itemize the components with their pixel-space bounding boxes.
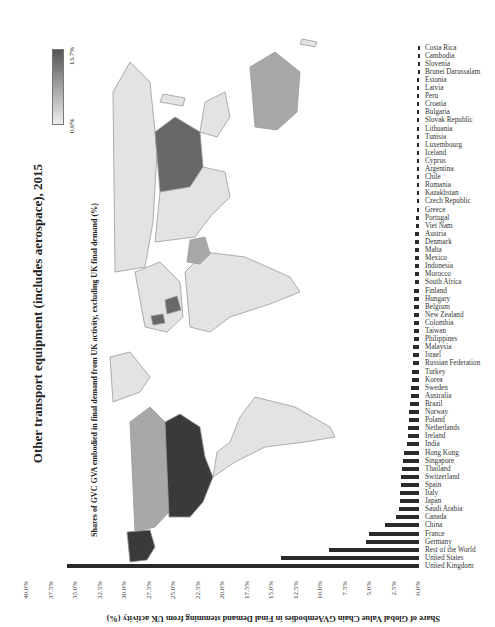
x-category-label: Israel	[425, 351, 441, 359]
bar	[281, 556, 419, 560]
x-category-label: Slovak Republic	[425, 117, 473, 125]
x-category-label: Romania	[425, 181, 451, 189]
x-category-label: Costa Rica	[425, 44, 456, 52]
y-tick-label: 15.0%	[267, 581, 275, 607]
bar	[415, 232, 419, 236]
bar	[414, 337, 419, 341]
y-tick-label: 30.0%	[120, 581, 128, 607]
bar	[417, 78, 419, 82]
x-category-label: Belgium	[425, 303, 450, 311]
bar	[410, 402, 419, 406]
united-states-region	[165, 414, 213, 517]
x-category-label: Slovenia	[425, 60, 450, 68]
x-category-label: Germany	[425, 538, 452, 546]
bar	[416, 216, 419, 220]
bar	[417, 86, 419, 90]
russia-region	[113, 62, 157, 272]
bar	[411, 394, 419, 398]
x-category-label: Denmark	[425, 238, 452, 246]
legend-max-label: 13.7%	[68, 47, 76, 65]
bar	[329, 548, 419, 552]
bar	[399, 507, 419, 511]
bar	[366, 540, 419, 544]
x-category-label: Taiwan	[425, 327, 446, 335]
x-category-label: Peru	[425, 92, 438, 100]
uk-region	[151, 314, 165, 325]
x-category-label: Canada	[425, 513, 447, 521]
bar	[418, 70, 420, 74]
y-tick-label: 17.5%	[243, 581, 251, 607]
y-tick-label: 10.0%	[316, 581, 324, 607]
x-category-label: Morocco	[425, 270, 451, 278]
bar	[414, 289, 419, 293]
bar	[414, 305, 419, 309]
bar	[415, 264, 419, 268]
bar	[417, 135, 419, 139]
bar	[413, 362, 419, 366]
bar	[396, 515, 419, 519]
x-category-label: Spain	[425, 481, 441, 489]
x-category-label: Korea	[425, 376, 443, 384]
bar	[418, 46, 420, 50]
bar	[412, 370, 419, 374]
bar	[417, 208, 419, 212]
y-tick-label: 35.0%	[71, 581, 79, 607]
bar	[417, 191, 419, 195]
x-category-label: Portugal	[425, 214, 449, 222]
bar	[415, 248, 419, 252]
x-category-label: Croatia	[425, 100, 446, 108]
x-category-label: New Zealand	[425, 311, 464, 319]
x-category-label: Brazil	[425, 400, 443, 408]
bar	[412, 378, 419, 382]
x-category-label: Greece	[425, 206, 445, 214]
y-tick-label: 40.0%	[22, 581, 30, 607]
bar	[414, 313, 419, 317]
bar	[417, 200, 419, 204]
bar	[411, 386, 419, 390]
bar	[417, 102, 419, 106]
x-category-label: Cambodia	[425, 52, 455, 60]
y-tick-label: 22.5%	[194, 581, 202, 607]
map-legend: 0.0% 13.7%	[48, 41, 88, 137]
canada-region	[130, 407, 169, 532]
y-tick-label: 2.5%	[390, 581, 398, 607]
x-category-label: Rest of the World	[425, 546, 476, 554]
y-tick-label: 0.0%	[414, 581, 422, 607]
x-category-label: Iceland	[425, 149, 446, 157]
x-category-label: Viet Nam	[425, 222, 453, 230]
bar	[415, 240, 419, 244]
bar	[417, 151, 419, 155]
x-category-label: Hungary	[425, 295, 450, 303]
x-category-label: United States	[425, 554, 464, 562]
x-category-label: United Kingdom	[425, 562, 474, 570]
x-category-label: Brunei Darussalam	[425, 68, 480, 76]
bar	[416, 224, 419, 228]
bar	[67, 564, 419, 568]
x-category-label: Chile	[425, 173, 441, 181]
bar	[417, 110, 419, 114]
bar	[417, 127, 419, 131]
x-category-label: Kazakhstan	[425, 189, 459, 197]
y-axis-label: Share of Global Value Chain GVAembodies …	[107, 614, 440, 623]
y-tick-label: 5.0%	[365, 581, 373, 607]
x-category-label: Argentina	[425, 165, 454, 173]
bar	[409, 418, 419, 422]
bar	[369, 532, 419, 536]
australia-region	[250, 52, 300, 130]
x-category-label: Finland	[425, 287, 447, 295]
africa-region	[185, 252, 300, 332]
bar	[408, 434, 419, 438]
x-category-label: Turkey	[425, 368, 446, 376]
x-category-label: Czech Republic	[425, 198, 471, 206]
x-category-label: Italy	[425, 489, 438, 497]
x-category-label: Russian Federation	[425, 360, 480, 368]
x-category-label: Colombia	[425, 319, 453, 327]
x-category-label: Saudi Arabia	[425, 505, 462, 513]
x-category-label: Tunisia	[425, 133, 446, 141]
alaska-region	[127, 530, 155, 562]
bar	[414, 329, 419, 333]
x-category-label: Ireland	[425, 432, 445, 440]
x-category-label: Luxembourg	[425, 141, 462, 149]
x-category-label: Indonesia	[425, 262, 453, 270]
bar	[409, 410, 419, 414]
